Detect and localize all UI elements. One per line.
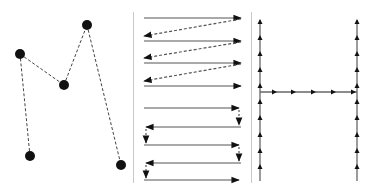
up-arrow-icon	[258, 164, 263, 169]
path-segment	[20, 54, 64, 85]
dot-icon	[59, 80, 69, 90]
up-arrow-icon	[355, 132, 360, 137]
up-arrow-icon	[258, 132, 263, 137]
up-arrow-icon	[258, 19, 263, 24]
path-segment	[87, 25, 121, 165]
retrace-arrow-dashed	[144, 64, 241, 81]
retrace-arrow-dashed	[144, 42, 241, 58]
right-arrow-icon	[311, 90, 316, 95]
path-segment	[64, 25, 87, 85]
dot-icon	[15, 49, 25, 59]
right-arrow-icon	[331, 90, 336, 95]
up-arrow-icon	[355, 67, 360, 72]
up-arrow-icon	[258, 148, 263, 153]
up-arrow-icon	[355, 115, 360, 120]
panel-random-order	[15, 20, 126, 170]
panel-h-path	[258, 19, 360, 181]
diagram-canvas	[0, 0, 376, 193]
up-arrow-icon	[355, 35, 360, 40]
up-arrow-icon	[258, 99, 263, 104]
up-arrow-icon	[355, 99, 360, 104]
panel-raster-scan	[144, 18, 241, 180]
right-arrow-icon	[272, 90, 277, 95]
up-arrow-icon	[355, 51, 360, 56]
up-arrow-icon	[355, 83, 360, 88]
diagram-svg	[0, 0, 376, 193]
right-arrow-icon	[351, 90, 356, 95]
up-arrow-icon	[355, 164, 360, 169]
dot-points	[15, 20, 126, 170]
up-arrow-icon	[355, 19, 360, 24]
dot-icon	[116, 160, 126, 170]
up-arrow-icon	[258, 51, 263, 56]
path-segment	[20, 54, 30, 156]
up-arrow-icon	[355, 148, 360, 153]
right-arrow-icon	[291, 90, 296, 95]
panel-dividers	[134, 12, 252, 183]
dot-icon	[82, 20, 92, 30]
up-arrow-icon	[258, 67, 263, 72]
up-arrow-icon	[258, 83, 263, 88]
retrace-arrow-dashed	[144, 19, 241, 36]
up-arrow-icon	[258, 115, 263, 120]
dot-icon	[25, 151, 35, 161]
dashed-path	[20, 25, 121, 165]
up-arrow-icon	[258, 35, 263, 40]
